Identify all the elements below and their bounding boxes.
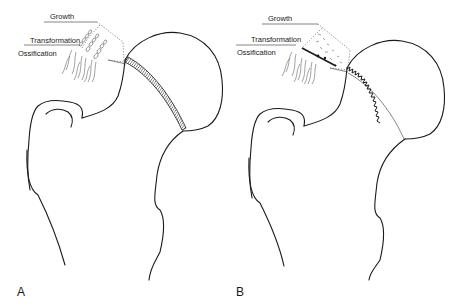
greater-trochanter — [250, 108, 305, 198]
label-growth-b: Growth — [268, 14, 292, 23]
medial-shaft-outline — [149, 131, 183, 280]
panel-a: Growth Transformation Ossification A — [17, 12, 222, 299]
greater-trochanter — [28, 100, 83, 190]
label-transformation-a: Transformation — [30, 36, 80, 45]
panel-letter-a: A — [17, 285, 25, 299]
figure-canvas: Growth Transformation Ossification A — [0, 0, 457, 307]
physis-inset-a — [62, 22, 126, 82]
trochanteric-fossa — [46, 109, 72, 127]
physis-jagged-line-inner — [348, 73, 404, 139]
femoral-head-outline — [125, 32, 222, 131]
panel-b: Growth Transformation Ossification B — [236, 14, 444, 299]
lateral-shaft-outline — [27, 150, 65, 265]
label-ossification-a: Ossification — [18, 49, 57, 58]
physis-hatched-band — [125, 57, 186, 130]
label-growth-a: Growth — [50, 12, 74, 21]
physis-inset-b — [282, 24, 350, 84]
ossification-trabeculae — [282, 52, 316, 84]
label-ossification-b: Ossification — [237, 48, 276, 57]
femoral-head-outline — [347, 40, 444, 139]
lateral-shaft-outline — [249, 158, 284, 266]
medial-shaft-outline — [369, 139, 405, 280]
panel-letter-b: B — [236, 285, 244, 299]
trochanteric-fossa — [268, 117, 294, 135]
label-transformation-b: Transformation — [251, 35, 301, 44]
ossification-trabeculae — [62, 50, 96, 82]
chondrocyte-columns — [79, 29, 108, 59]
